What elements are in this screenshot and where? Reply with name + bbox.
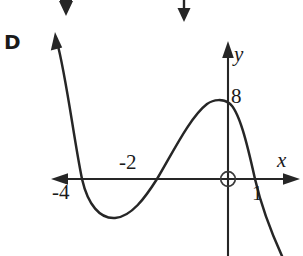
- graph-svg: [0, 0, 303, 256]
- y-axis: [222, 41, 234, 256]
- page-down-arrow-left-icon: [59, 0, 73, 16]
- x-axis: [51, 173, 300, 185]
- x-axis-arrow-right-icon: [283, 173, 300, 185]
- cubic-curve: [51, 32, 282, 256]
- curve-arrow-upleft-icon: [51, 32, 62, 51]
- page-down-arrow-right-icon: [178, 0, 191, 22]
- x-intercept-middle-label: -2: [119, 152, 137, 173]
- graph-figure: D y x 8 -2 -4 1: [0, 0, 303, 256]
- y-intercept-label: 8: [231, 86, 242, 107]
- y-axis-label: y: [234, 44, 243, 65]
- x-intercept-left-label: -4: [52, 182, 70, 203]
- choice-letter-label: D: [4, 32, 21, 52]
- y-axis-arrow-up-icon: [222, 41, 234, 58]
- x-intercept-right-label: 1: [252, 183, 263, 204]
- x-axis-label: x: [277, 150, 286, 171]
